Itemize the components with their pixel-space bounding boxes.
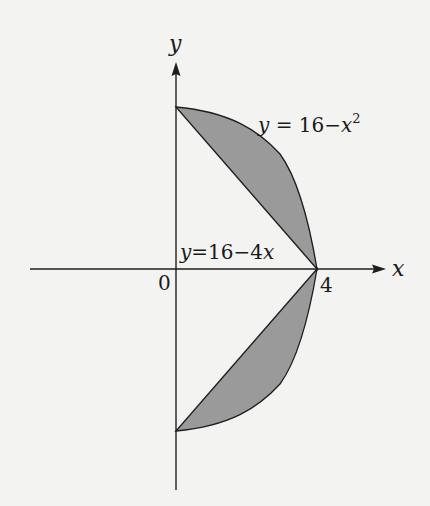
x-tick-label-4: 4 xyxy=(320,275,333,295)
y-axis-arrow-icon xyxy=(172,62,181,76)
parabola-label-exp: 2 xyxy=(352,111,360,126)
lower-shaded-region xyxy=(176,269,317,431)
line-label-x: x xyxy=(263,240,274,264)
parabola-label: y = 16−x2 xyxy=(258,112,361,135)
line-label: y=16−4x xyxy=(180,242,274,262)
parabola-label-var: y xyxy=(258,113,269,137)
x-axis-label: x xyxy=(392,258,404,280)
parabola-label-x: x xyxy=(341,113,352,137)
line-label-eq: =16−4 xyxy=(191,240,263,264)
parabola-label-eq: = 16− xyxy=(269,113,341,137)
origin-label: 0 xyxy=(158,273,171,293)
y-axis-label: y xyxy=(169,33,181,55)
line-label-var: y xyxy=(180,240,191,264)
x-axis-arrow-icon xyxy=(372,265,386,274)
